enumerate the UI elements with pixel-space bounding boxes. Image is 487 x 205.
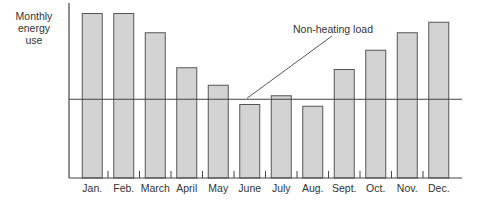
bar-march	[145, 33, 165, 178]
x-tick-label: May	[208, 182, 229, 194]
non-heating-load-annotation: Non-heating load	[293, 23, 373, 35]
x-tick-labels-group: Jan.Feb.MarchAprilMayJuneJulyAug.Sept.Oc…	[82, 182, 449, 194]
bar-chart: Jan.Feb.MarchAprilMayJuneJulyAug.Sept.Oc…	[0, 0, 487, 205]
x-tick-label: Aug.	[302, 182, 324, 194]
bars-group	[82, 14, 449, 179]
x-tick-label: Feb.	[113, 182, 134, 194]
x-tick-label: Nov.	[397, 182, 418, 194]
bar-june	[240, 105, 260, 179]
bar-july	[271, 96, 291, 178]
x-tick-label: March	[141, 182, 170, 194]
bar-aug	[303, 106, 323, 178]
x-tick-label: June	[238, 182, 261, 194]
x-tick-label: Dec.	[428, 182, 450, 194]
annotation-leader-line	[247, 36, 332, 98]
bar-nov	[397, 33, 417, 178]
x-tick-label: April	[176, 182, 197, 194]
bar-oct	[366, 50, 386, 178]
x-tick-label: Jan.	[82, 182, 102, 194]
bar-sept	[334, 70, 354, 179]
x-tick-label: July	[272, 182, 291, 194]
bar-jan	[82, 14, 102, 179]
bar-feb	[114, 14, 134, 179]
x-tick-label: Oct.	[366, 182, 385, 194]
bar-april	[177, 68, 197, 178]
bar-dec	[429, 22, 449, 178]
x-tick-label: Sept.	[332, 182, 357, 194]
